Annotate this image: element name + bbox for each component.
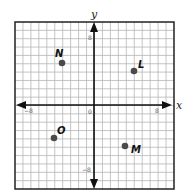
- point-l-label: L: [138, 59, 144, 70]
- point-m-label: M: [131, 144, 141, 155]
- x-axis-label: x: [176, 99, 183, 112]
- point-o-label: O: [57, 125, 66, 136]
- point-l: [131, 68, 138, 75]
- point-m: [122, 143, 129, 150]
- y-axis-down-arrow-icon: [90, 179, 98, 189]
- y-axis-up-arrow-icon: [90, 22, 98, 32]
- y-neg-tick-label: −8: [82, 166, 91, 173]
- x-neg-tick-label: −8: [24, 107, 33, 114]
- y-pos-tick-label: 8: [88, 34, 92, 41]
- origin-label: 0: [88, 108, 92, 115]
- x-pos-tick-label: 8: [155, 107, 159, 114]
- x-axis-right-arrow-icon: [162, 101, 172, 109]
- coordinate-plane: x y 0 −8 8 8 −8 N L O M: [0, 0, 189, 194]
- point-n-label: N: [55, 48, 64, 59]
- point-n: [59, 60, 66, 67]
- y-axis-label: y: [90, 8, 98, 21]
